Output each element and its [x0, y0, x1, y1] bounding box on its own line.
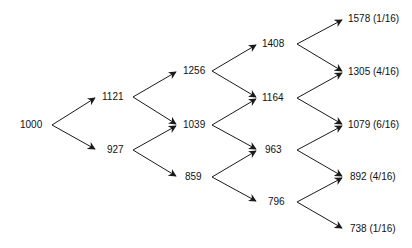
node-label: 1256 [183, 65, 205, 77]
down-branch-arrow [52, 125, 95, 149]
down-branch-arrow [212, 125, 256, 149]
up-branch-arrow [133, 72, 176, 97]
node-label: 1305 (4/16) [348, 66, 399, 78]
node-label: 1079 (6/16) [348, 119, 399, 131]
up-branch-arrow [212, 45, 256, 71]
binomial-tree-diagram: 1000112192712561039859140811649637961578… [0, 0, 412, 248]
down-branch-arrow [297, 98, 342, 124]
down-branch-arrow [133, 150, 176, 176]
up-branch-arrow [52, 98, 95, 125]
node-label: 892 (4/16) [350, 171, 396, 183]
node-label: 1578 (1/16) [348, 13, 399, 25]
node-label: 1121 [102, 91, 124, 103]
node-label: 796 [268, 196, 285, 208]
node-label: 1039 [183, 119, 205, 131]
up-branch-arrow [297, 73, 342, 98]
node-label: 963 [265, 144, 282, 156]
up-branch-arrow [212, 99, 256, 125]
node-label: 1000 [20, 119, 42, 131]
node-label: 1408 [262, 38, 284, 50]
down-branch-arrow [133, 97, 176, 124]
down-branch-arrow [212, 177, 256, 201]
down-branch-arrow [212, 71, 256, 97]
node-label: 1164 [262, 92, 284, 104]
up-branch-arrow [133, 126, 176, 150]
up-branch-arrow [297, 20, 342, 44]
down-branch-arrow [297, 44, 342, 71]
node-label: 927 [107, 144, 124, 156]
up-branch-arrow [212, 151, 256, 177]
down-branch-arrow [297, 150, 342, 176]
up-branch-arrow [297, 126, 342, 150]
down-branch-arrow [297, 202, 342, 228]
node-label: 738 (1/16) [350, 223, 396, 235]
up-branch-arrow [297, 178, 342, 202]
node-label: 859 [185, 171, 202, 183]
